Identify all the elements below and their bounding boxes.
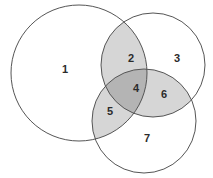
- region-label-3: 3: [174, 52, 180, 64]
- venn-diagram: 1 2 3 4 5 6 7: [0, 0, 213, 178]
- region-label-7: 7: [144, 132, 150, 144]
- venn-diagram-canvas: 1 2 3 4 5 6 7: [0, 0, 213, 178]
- region-label-1: 1: [62, 63, 68, 75]
- region-label-6: 6: [161, 88, 167, 100]
- region-label-4: 4: [133, 82, 140, 94]
- region-label-2: 2: [128, 52, 134, 64]
- region-label-5: 5: [107, 105, 113, 117]
